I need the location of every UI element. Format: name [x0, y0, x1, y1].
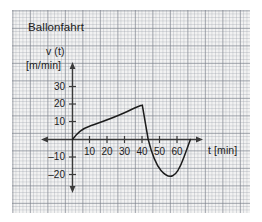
x-tick-label: 50 — [154, 147, 165, 157]
x-tick-label: 20 — [101, 147, 112, 157]
chart-figure: Ballonfahrt v (t) [m/min] t [min] 10 20 … — [0, 0, 262, 222]
y-axis — [69, 62, 76, 193]
y-axis-unit: [m/min] — [26, 60, 61, 71]
y-tick-label: 20 — [48, 99, 65, 109]
y-tick-label: 30 — [48, 82, 65, 92]
x-tick-label: 40 — [136, 147, 147, 157]
x-tick-label: 10 — [84, 147, 95, 157]
y-tick-label: 10 — [48, 117, 65, 127]
chart-title: Ballonfahrt — [28, 22, 84, 34]
y-axis-name: v (t) — [46, 46, 65, 57]
y-tick-label: –10 — [41, 152, 65, 162]
x-tick-label: 60 — [171, 147, 182, 157]
x-axis — [41, 136, 203, 143]
x-axis-label: t [min] — [208, 145, 237, 156]
velocity-curve — [73, 105, 191, 176]
y-tick-label: –20 — [41, 170, 65, 180]
x-tick-label: 30 — [119, 147, 130, 157]
